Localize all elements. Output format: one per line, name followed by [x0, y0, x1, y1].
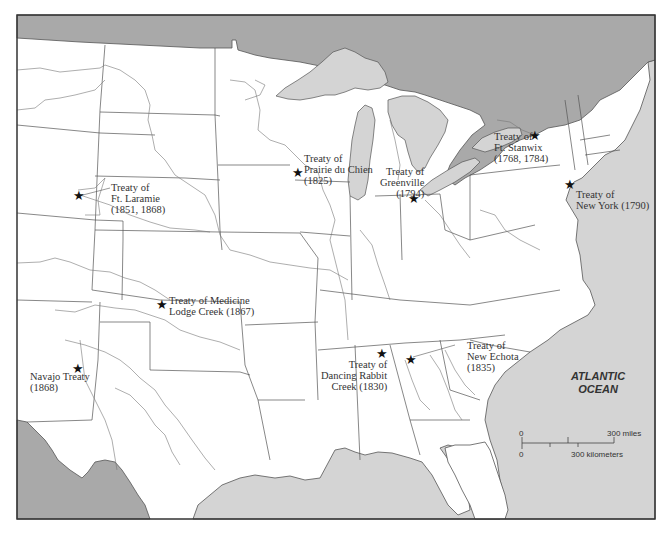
scale-miles-label: 300 miles: [607, 429, 641, 438]
star-icon-medicine-lodge-creek: ★: [156, 298, 168, 311]
label-line: Treaty of: [321, 359, 387, 370]
label-line: (1768, 1784): [494, 153, 548, 164]
label-line: Ft. Stanwix: [494, 142, 548, 153]
label-prairie-du-chien: Treaty of Prairie du Chien (1825): [304, 153, 373, 186]
ocean-label-line2: OCEAN: [568, 383, 628, 396]
label-line: Treaty of Medicine: [169, 295, 254, 306]
label-new-york: Treaty of New York (1790): [576, 189, 649, 211]
label-navajo: Navajo Treaty (1868): [30, 371, 90, 393]
label-line: (1868): [30, 382, 90, 393]
label-line: Treaty of: [467, 340, 519, 351]
label-line: Creek (1830): [321, 381, 387, 392]
label-greenville: Treaty of Greenville (1794): [380, 166, 424, 199]
label-line: Treaty of: [494, 131, 548, 142]
label-line: (1835): [467, 362, 519, 373]
scale-miles-zero: 0: [519, 429, 523, 438]
map-canvas: [0, 0, 667, 543]
label-line: New York (1790): [576, 200, 649, 211]
star-icon-new-york: ★: [564, 178, 576, 191]
label-line: (1825): [304, 175, 373, 186]
label-line: (1794): [380, 188, 424, 199]
label-medicine-lodge-creek: Treaty of Medicine Lodge Creek (1867): [169, 295, 254, 317]
label-line: Treaty of: [304, 153, 373, 164]
label-ft-stanwix: Treaty of Ft. Stanwix (1768, 1784): [494, 131, 548, 164]
label-line: Treaty of: [380, 166, 424, 177]
scale-km-label: 300 kilometers: [571, 450, 623, 459]
label-line: New Echota: [467, 351, 519, 362]
label-line: Ft. Laramie: [111, 193, 165, 204]
ocean-label-line1: ATLANTIC: [568, 370, 628, 383]
label-line: Navajo Treaty: [30, 371, 90, 382]
label-line: (1851, 1868): [111, 204, 165, 215]
label-line: Greenville: [380, 177, 424, 188]
label-line: Treaty of: [576, 189, 649, 200]
label-line: Lodge Creek (1867): [169, 306, 254, 317]
scale-km-zero: 0: [519, 450, 523, 459]
star-icon-ft-laramie: ★: [73, 189, 85, 202]
ocean-label: ATLANTIC OCEAN: [568, 370, 628, 396]
label-line: Treaty of: [111, 182, 165, 193]
label-line: Prairie du Chien: [304, 164, 373, 175]
label-dancing-rabbit-creek: Treaty of Dancing Rabbit Creek (1830): [321, 359, 387, 392]
label-new-echota: Treaty of New Echota (1835): [467, 340, 519, 373]
star-icon-prairie-du-chien: ★: [292, 166, 304, 179]
label-ft-laramie: Treaty of Ft. Laramie (1851, 1868): [111, 182, 165, 215]
label-line: Dancing Rabbit: [321, 370, 387, 381]
star-icon-new-echota: ★: [405, 353, 417, 366]
